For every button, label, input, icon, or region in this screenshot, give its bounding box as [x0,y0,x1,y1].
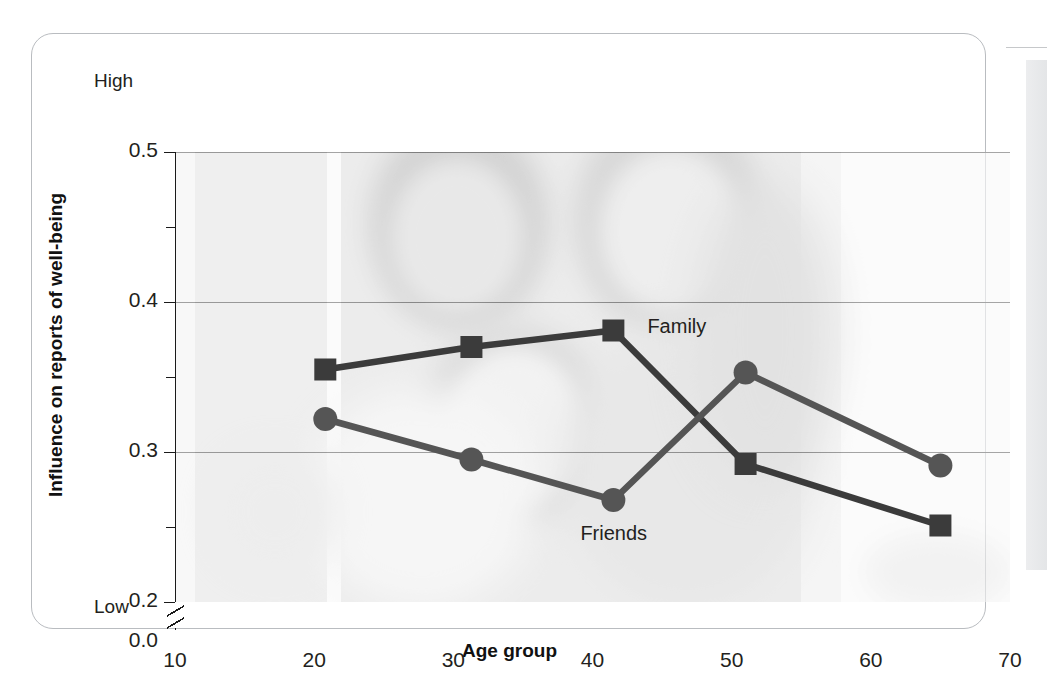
x-tick-label: 30 [413,648,493,672]
series-label-friends: Friends [580,522,647,545]
y-tick-label: 0.2 [32,588,158,612]
x-tick-label: 60 [831,648,911,672]
page-edge-strip [1026,60,1047,570]
x-tick-label: 20 [274,648,354,672]
y-tick-label: 0.5 [32,138,158,162]
plot-area: Family Friends [175,152,1010,602]
y-tick-label: 0.4 [32,288,158,312]
axis-anchor-high: High [94,70,133,92]
series-label-family: Family [647,315,706,338]
page-edge-rule [1006,47,1047,48]
y-tick-label: 0.3 [32,438,158,462]
x-tick-label: 40 [553,648,633,672]
y-axis-title: Influence on reports of well-being [45,85,67,605]
x-tick-label: 10 [135,648,215,672]
x-tick-label: 50 [692,648,772,672]
figure-frame: High Low Influence on reports of well-be… [31,33,986,629]
x-tick-label: 70 [970,648,1047,672]
